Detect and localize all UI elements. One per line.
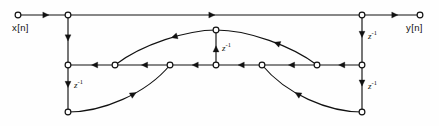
arrowhead-right-2 [392,12,398,18]
arrowhead-left-10 [192,62,198,68]
flow-graph-canvas [0,0,439,126]
arrowhead-right-0 [43,12,49,18]
bottom-node-right [359,109,365,115]
arrowhead-right-1 [209,12,215,18]
delay-exponent: -1 [372,79,377,86]
input-node [15,12,21,18]
signal-flow-graph-figure: x[n] y[n] z-1z-1z-1z-1 [0,0,439,126]
feedback-curve-upper-right [216,30,317,65]
middle-node-5 [259,62,265,68]
middle-node-4 [213,62,219,68]
top-node-right [359,12,365,18]
arrowhead-down-5 [359,31,365,37]
input-signal-label: x[n] [12,22,29,33]
delay-label: z-1 [74,80,83,90]
arrowhead-curve-upper-left [170,33,178,41]
delay-label: z-1 [368,31,377,41]
top-node-left [65,12,71,18]
middle-node-7 [359,62,365,68]
arrowhead-left-13 [339,62,345,68]
output-signal-label: y[n] [406,22,423,33]
feedback-curve-lower-left [68,65,170,112]
arrowhead-left-11 [238,62,244,68]
bottom-node-left [65,109,71,115]
arrowhead-down-6 [359,80,365,86]
middle-node-1 [65,62,71,68]
arrowhead-down-4 [65,81,71,87]
arrowhead-curve-upper-right [273,39,281,47]
delay-label: z-1 [368,81,377,91]
delay-exponent: -1 [372,29,377,36]
arrowhead-left-9 [141,62,147,68]
feedback-curve-lower-right [262,65,362,112]
delay-exponent: -1 [226,41,231,48]
middle-node-6 [314,62,320,68]
arrowhead-down-3 [65,35,71,41]
delay-label: z-1 [222,43,231,53]
output-node [417,12,423,18]
middle-node-3 [167,62,173,68]
arrowhead-curve-lower-right [294,90,302,98]
arrowhead-left-8 [92,62,98,68]
delay-exponent: -1 [78,78,83,85]
arrowhead-curve-lower-left [129,90,137,98]
arrowhead-left-12 [288,62,294,68]
center-top-node [213,27,219,33]
middle-node-2 [112,62,118,68]
arrow-layer [43,12,398,98]
feedback-curve-upper-left [115,30,216,65]
arrowhead-up-7 [213,46,219,52]
